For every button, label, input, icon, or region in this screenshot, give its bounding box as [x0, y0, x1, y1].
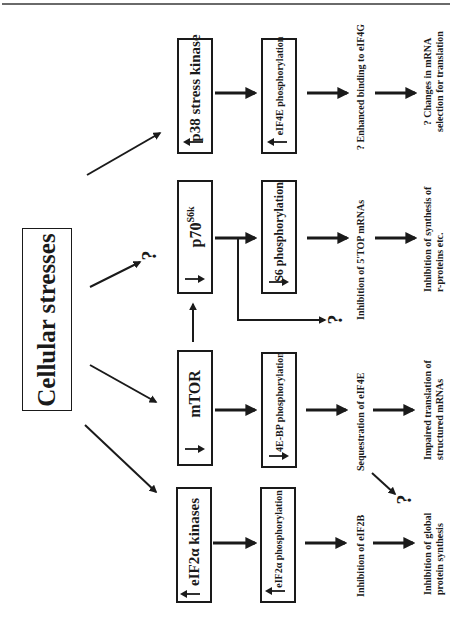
mtor-label: mTOR	[186, 370, 204, 418]
arrow-sequestration-to-unknown	[372, 473, 395, 494]
changes-mrna-selection-label: ? Changes in mRNA selection for translat…	[422, 31, 446, 132]
p70s6k-box: p70S6k	[177, 180, 213, 294]
arrow-root-to-unknown	[90, 262, 140, 287]
impaired-translation-label: Impaired translation of structured mRNAs	[422, 360, 446, 460]
eif2a-phosphorylation-label: eIF2α phosphorylation	[273, 490, 284, 588]
arrow-root-to-p38	[87, 133, 160, 175]
arrow-down-icon	[267, 277, 289, 287]
p70-text: p70	[187, 223, 204, 248]
sequestration-eif4e-label: Sequestration of eIF4E	[355, 373, 367, 471]
rproteins-line1: Inhibition of synthesis of	[422, 187, 434, 292]
arrow-up-icon	[265, 586, 287, 596]
eif2a-kinases-label: eIF2α kinases	[186, 498, 203, 586]
p70s6k-label: p70S6k	[185, 206, 204, 247]
eif2a-kinases-box: eIF2α kinases	[176, 487, 212, 603]
inhibition-eif2b-label: Inhibition of eIF2B	[355, 515, 367, 597]
eif2a-phosphorylation-box: eIF2α phosphorylation	[260, 487, 296, 603]
arrow-root-to-eif2a	[85, 425, 156, 492]
cellular-stresses-label: Cellular stresses	[33, 233, 61, 406]
s6-phosphorylation-label: S6 phosphorylation	[272, 182, 287, 282]
arrow-down-icon	[183, 274, 205, 284]
inhibition-5top-label: Inhibition of 5'TOP mRNAs	[355, 200, 367, 320]
p38-kinase-box: p38 stress kinase	[177, 38, 213, 154]
enhanced-binding-label: ? Enhanced binding to eIF4G	[355, 24, 367, 150]
arrow-up-icon	[267, 137, 289, 147]
changes-mrna-line2: selection for translation	[434, 31, 446, 132]
arrow-up-icon	[180, 589, 202, 599]
inhibition-global-synthesis-label: Inhibition of global protein synthesis	[422, 513, 446, 595]
impaired-line2: structured mRNAs	[434, 360, 446, 460]
impaired-line1: Impaired translation of	[422, 360, 434, 460]
cellular-stresses-box: Cellular stresses	[22, 228, 72, 411]
s6k-superscript: S6k	[185, 206, 196, 222]
s6-phosphorylation-box: S6 phosphorylation	[261, 180, 297, 294]
4ebp-phosphorylation-box: 4E-BP phosphorylation	[261, 352, 297, 468]
rproteins-line2: r-proteins etc.	[434, 187, 446, 292]
changes-mrna-line1: ? Changes in mRNA	[422, 31, 434, 132]
eif4e-phosphorylation-label: eIF4E phosphorylation	[274, 37, 285, 136]
eif4e-phosphorylation-box: eIF4E phosphorylation	[261, 38, 297, 154]
arrow-up-icon	[183, 137, 205, 147]
mtor-box: mTOR	[177, 350, 213, 466]
arrow-down-icon	[267, 451, 289, 461]
upstream-unknown-mark: ?	[138, 251, 161, 261]
global-line2: protein synthesis	[434, 513, 446, 595]
arrow-down-icon	[183, 444, 205, 454]
global-line1: Inhibition of global	[422, 513, 434, 595]
inhibition-rproteins-label: Inhibition of synthesis of r-proteins et…	[422, 187, 446, 292]
branch-unknown-mark: ?	[324, 315, 347, 325]
p38-kinase-label: p38 stress kinase	[187, 34, 204, 141]
cross-unknown-mark: ?	[393, 495, 416, 505]
4ebp-phosphorylation-label: 4E-BP phosphorylation	[274, 352, 285, 452]
arrow-root-to-mtor	[90, 365, 156, 402]
